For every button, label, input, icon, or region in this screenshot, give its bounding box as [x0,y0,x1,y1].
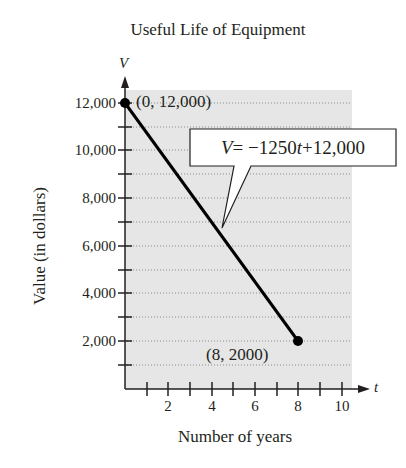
x-tick-label: 4 [208,398,216,415]
x-axis-variable: t [374,379,378,396]
start-point-label: (0, 12,000) [136,92,211,112]
y-axis-variable: V [119,55,128,72]
point-start [120,98,130,108]
equation-const: +12,000 [302,137,365,159]
x-tick-label: 10 [335,398,350,415]
y-tick-label: 4,000 [82,285,116,302]
y-axis-label: Value (in dollars) [30,187,50,305]
equation-coef: = −1250 [233,137,297,159]
point-end [293,336,303,346]
x-axis-label: Number of years [125,427,345,447]
x-axis-arrow-icon [358,385,370,393]
y-tick-label: 2,000 [82,333,116,350]
x-tick-label: 6 [251,398,259,415]
equation-label: V = −1250t +12,000 [190,129,396,166]
y-axis-arrow-icon [121,76,129,88]
x-tick-label: 2 [164,398,172,415]
y-tick-label: 10,000 [75,142,116,159]
y-tick-label: 8,000 [82,190,116,207]
equation-var: V [221,137,233,159]
y-tick-label: 6,000 [82,238,116,255]
x-tick-label: 8 [294,398,302,415]
end-point-label: (8, 2000) [206,345,268,365]
y-tick-label: 12,000 [75,95,116,112]
